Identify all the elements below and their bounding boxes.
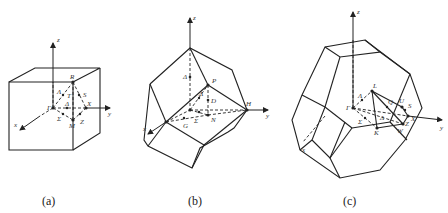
label-Delta: Δ [64, 100, 69, 108]
label-z: z [192, 14, 196, 22]
polyhedron-edges [292, 40, 422, 178]
label-M: M [68, 122, 76, 130]
label-y: y [439, 124, 444, 132]
label-W: W [397, 127, 404, 135]
label-S: S [83, 91, 87, 99]
label-Q: Q [388, 98, 393, 106]
label-P: P [211, 77, 217, 85]
label-x: x [301, 146, 306, 154]
label-Lambda: Λ [56, 88, 62, 96]
figure-b: z y x P H N G Δ Λ D Σ (b) [140, 0, 290, 213]
label-Sigma: Σ [193, 117, 199, 125]
polyhedron-edges [144, 48, 247, 168]
label-H: H [245, 100, 252, 108]
label-L: L [372, 82, 377, 90]
label-N: N [210, 116, 216, 124]
label-K: K [373, 129, 379, 137]
cube-diagram: z y x R Γ X M Λ T S Δ Σ Z (a) [0, 0, 150, 213]
label-Sigma: Σ [357, 118, 363, 126]
label-Z: Z [405, 120, 409, 128]
label-y: y [265, 112, 270, 120]
caption-a: (a) [42, 194, 55, 208]
label-T: T [67, 92, 72, 100]
label-G: G [183, 122, 188, 130]
label-z: z [356, 8, 360, 16]
label-x: x [13, 121, 18, 129]
figure-a: z y x R Γ X M Λ T S Δ Σ Z (a) [0, 0, 150, 213]
label-D: D [210, 97, 216, 105]
label-X: X [410, 115, 416, 123]
caption-b: (b) [188, 194, 202, 208]
caption-c: (c) [343, 194, 356, 208]
truncated-octahedron-diagram: z y x L Γ Λ Q U S Σ Δ K W Z X (c) [290, 0, 448, 213]
label-y: y [107, 110, 112, 118]
rhombic-dodecahedron-diagram: z y x P H N G Δ Λ D Σ (b) [140, 0, 290, 213]
label-U: U [399, 97, 405, 105]
label-R: R [69, 73, 75, 81]
label-Lambda: Λ [198, 90, 204, 98]
x-axis [148, 122, 166, 134]
label-Z: Z [80, 118, 84, 126]
figure-c: z y x L Γ Λ Q U S Σ Δ K W Z X (c) [290, 0, 448, 213]
label-X: X [86, 100, 92, 108]
label-Gamma: Γ [345, 104, 351, 112]
label-Lambda: Λ [357, 92, 363, 100]
label-z: z [56, 36, 60, 44]
x-axis [20, 116, 40, 130]
label-S: S [408, 102, 412, 110]
label-Delta: Δ [379, 114, 384, 122]
label-Sigma: Σ [56, 115, 62, 123]
label-Delta: Δ [182, 73, 187, 81]
label-Gamma: Γ [46, 104, 52, 112]
label-x: x [142, 125, 147, 133]
